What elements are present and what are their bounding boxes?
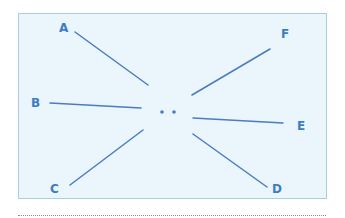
ray-c — [70, 130, 143, 185]
ray-b — [50, 103, 141, 108]
label-e: E — [297, 119, 305, 133]
ray-d — [193, 134, 267, 187]
ray-a — [75, 32, 148, 85]
label-f: F — [281, 27, 289, 41]
label-a: A — [59, 21, 69, 35]
label-d: D — [272, 182, 282, 196]
center-dot-right — [172, 110, 176, 114]
label-b: B — [31, 96, 40, 110]
label-c: C — [50, 182, 59, 196]
ray-e — [193, 118, 283, 123]
dotted-divider — [18, 215, 326, 216]
ray-f — [192, 49, 270, 95]
center-dot-left — [160, 110, 164, 114]
ray-diagram: A B C D E F — [0, 0, 345, 218]
